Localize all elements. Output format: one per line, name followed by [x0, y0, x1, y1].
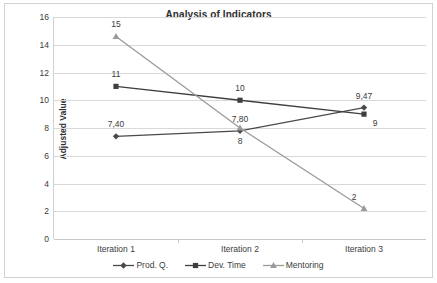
chart-legend: Prod. Q.Dev. TimeMentoring: [5, 260, 432, 270]
x-axis-tick-label: Iteration 2: [195, 244, 285, 254]
chart-container: Analysis of Indicators Adjusted Value 16…: [4, 3, 433, 278]
data-point-label: 7,80: [232, 114, 249, 124]
legend-item-dev-time[interactable]: Dev. Time: [185, 260, 246, 270]
data-point-marker: [113, 33, 120, 39]
data-point-label: 7,40: [108, 119, 125, 129]
legend-label: Dev. Time: [208, 260, 246, 270]
y-axis-tick-label: 10: [27, 95, 49, 105]
legend-marker-diamond-icon: [113, 261, 134, 270]
data-point-label: 15: [111, 19, 120, 29]
data-point-marker: [113, 84, 118, 89]
data-point-label: 10: [235, 83, 244, 93]
data-point-marker: [361, 112, 366, 117]
data-point-marker: [237, 98, 242, 103]
y-axis-tick-label: 0: [27, 234, 49, 244]
data-point-marker: [113, 133, 119, 139]
y-axis-tick-label: 8: [27, 123, 49, 133]
y-axis-tick-label: 16: [27, 12, 49, 22]
x-axis-line: [54, 239, 426, 240]
y-axis-tick-label: 4: [27, 179, 49, 189]
x-axis-tick-label: Iteration 3: [319, 244, 409, 254]
y-axis-tick-labels: 1614121086420: [25, 17, 49, 239]
plot-area: 7,407,809,47111091582: [54, 17, 426, 239]
data-point-label: 8: [238, 136, 243, 146]
legend-label: Mentoring: [286, 260, 324, 270]
data-point-marker: [121, 262, 127, 268]
data-point-marker: [193, 262, 198, 267]
data-point-marker: [361, 104, 367, 110]
data-point-marker: [361, 205, 368, 211]
y-axis-tick-label: 14: [27, 40, 49, 50]
y-axis-tick-label: 2: [27, 206, 49, 216]
x-axis-tick-labels: Iteration 1Iteration 2Iteration 3: [54, 244, 426, 258]
data-point-label: 9: [373, 118, 378, 128]
legend-marker-triangle-icon: [263, 261, 284, 270]
data-point-label: 9,47: [356, 91, 373, 101]
y-axis-title-wrapper: Adjusted Value: [51, 4, 52, 254]
x-axis-tick-label: Iteration 1: [71, 244, 161, 254]
legend-item-prod-q[interactable]: Prod. Q.: [113, 260, 168, 270]
legend-label: Prod. Q.: [136, 260, 168, 270]
legend-item-mentoring[interactable]: Mentoring: [263, 260, 324, 270]
data-point-label: 2: [352, 192, 357, 202]
y-axis-tick-label: 6: [27, 151, 49, 161]
legend-marker-square-icon: [185, 261, 206, 270]
data-point-label: 11: [112, 69, 121, 79]
y-axis-tick-label: 12: [27, 68, 49, 78]
